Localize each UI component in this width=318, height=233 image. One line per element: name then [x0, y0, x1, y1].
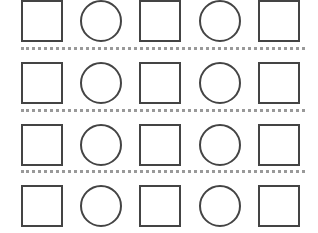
circle-shape	[80, 0, 122, 42]
dotted-separator	[21, 170, 305, 173]
square-shape	[21, 0, 63, 42]
circle-shape	[199, 62, 241, 104]
square-shape	[139, 124, 181, 166]
square-shape	[139, 185, 181, 227]
dotted-separator	[21, 109, 305, 112]
square-shape	[258, 0, 300, 42]
square-shape	[21, 62, 63, 104]
square-shape	[139, 0, 181, 42]
circle-shape	[80, 124, 122, 166]
square-shape	[258, 185, 300, 227]
dotted-separator	[21, 47, 305, 50]
square-shape	[258, 124, 300, 166]
circle-shape	[199, 124, 241, 166]
circle-shape	[80, 185, 122, 227]
circle-shape	[199, 0, 241, 42]
square-shape	[21, 185, 63, 227]
circle-shape	[80, 62, 122, 104]
square-shape	[139, 62, 181, 104]
circle-shape	[199, 185, 241, 227]
square-shape	[258, 62, 300, 104]
square-shape	[21, 124, 63, 166]
